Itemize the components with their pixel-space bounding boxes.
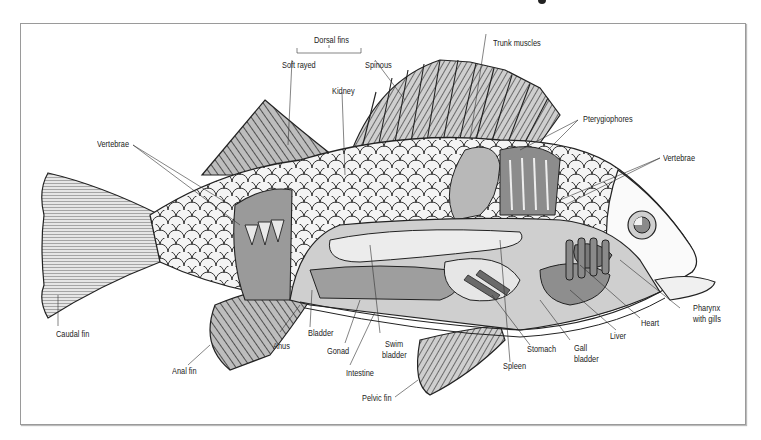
label-bladder: Bladder — [308, 328, 333, 339]
label-pharynx-line1: Pharynx — [693, 303, 720, 314]
label-pelvic-fin: Pelvic fin — [362, 393, 392, 404]
label-pterygiophores: Pterygiophores — [583, 114, 633, 125]
label-soft-rayed: Soft rayed — [282, 60, 316, 71]
caudal-fin-shape — [42, 173, 160, 318]
label-kidney: Kidney — [332, 86, 355, 97]
label-gall-bladder-line2: bladder — [574, 354, 599, 365]
label-vertebrae-left: Vertebrae — [97, 139, 129, 150]
pterygiophores-region — [500, 147, 560, 215]
gonad-organ — [310, 266, 458, 300]
label-pharynx-line2: with gills — [693, 314, 721, 325]
label-dorsal-fins: Dorsal fins — [314, 35, 349, 46]
label-spleen: Spleen — [503, 361, 526, 372]
lower-jaw — [655, 276, 715, 300]
label-stomach: Stomach — [527, 344, 556, 355]
label-anus: Anus — [273, 341, 290, 352]
label-vertebrae-right: Vertebrae — [663, 153, 695, 164]
vertebrae-left-window — [234, 189, 292, 300]
label-gall-bladder-line1: Gall — [574, 343, 587, 354]
label-swim-bladder-line2: bladder — [382, 350, 407, 361]
label-intestine: Intestine — [346, 368, 374, 379]
label-spinous: Spinous — [365, 60, 392, 71]
label-swim-bladder-line1: Swim — [385, 339, 403, 350]
label-trunk-muscles: Trunk muscles — [493, 38, 541, 49]
label-gonad: Gonad — [327, 346, 349, 357]
label-caudal-fin: Caudal fin — [56, 329, 89, 340]
label-heart: Heart — [641, 318, 659, 329]
label-liver: Liver — [610, 331, 626, 342]
label-anal-fin: Anal fin — [172, 366, 197, 377]
